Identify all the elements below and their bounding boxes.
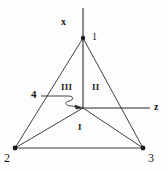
vertex-label-3: 3	[148, 152, 154, 164]
region-label-ii: II	[92, 83, 100, 92]
region-label-iii: III	[61, 83, 72, 92]
vertex-dot-3	[141, 146, 146, 151]
vertex-label-1: 1	[92, 32, 97, 42]
vertex-dot-2	[13, 146, 18, 151]
x-axis-label: x	[61, 17, 66, 27]
edge-1-3	[83, 38, 143, 148]
vertex-label-2: 2	[4, 152, 10, 164]
edge-4-2	[15, 108, 83, 148]
region-label-i: I	[78, 123, 82, 132]
tetrahedron-figure	[0, 0, 168, 171]
callout-4-leader	[41, 96, 80, 108]
edge-4-3	[83, 108, 143, 148]
edge-1-2	[15, 38, 83, 148]
vertex-dot-1	[81, 36, 85, 40]
callout-4-arrowhead	[75, 105, 83, 109]
callout-label-4: 4	[31, 89, 37, 100]
diagram-canvas: x z 1 2 3 4 I II III	[0, 0, 168, 171]
z-axis-label: z	[154, 102, 158, 112]
